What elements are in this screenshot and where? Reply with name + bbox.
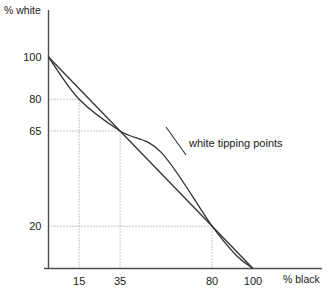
tick-labels-y: 100806520 — [23, 51, 41, 232]
annotation-white-tipping-points: white tipping points — [188, 137, 283, 149]
chart-container: 100806520 153580100 % white % black whit… — [0, 0, 333, 291]
x-tick-label-80: 80 — [206, 275, 218, 287]
leader-line — [166, 127, 186, 155]
white-tipping-points-chart: 100806520 153580100 % white % black whit… — [0, 0, 333, 291]
y-tick-label-80: 80 — [29, 93, 41, 105]
grid-lines — [49, 99, 213, 268]
x-tick-label-35: 35 — [114, 275, 126, 287]
y-tick-label-20: 20 — [29, 220, 41, 232]
y-tick-label-65: 65 — [29, 125, 41, 137]
annotation-leader — [166, 127, 186, 155]
x-tick-label-100: 100 — [244, 275, 262, 287]
x-tick-label-15: 15 — [73, 275, 85, 287]
y-tick-label-100: 100 — [23, 51, 41, 63]
y-axis-title: % white — [4, 4, 41, 16]
x-axis-title: % black — [283, 273, 321, 285]
tick-labels-x: 153580100 — [73, 275, 262, 287]
